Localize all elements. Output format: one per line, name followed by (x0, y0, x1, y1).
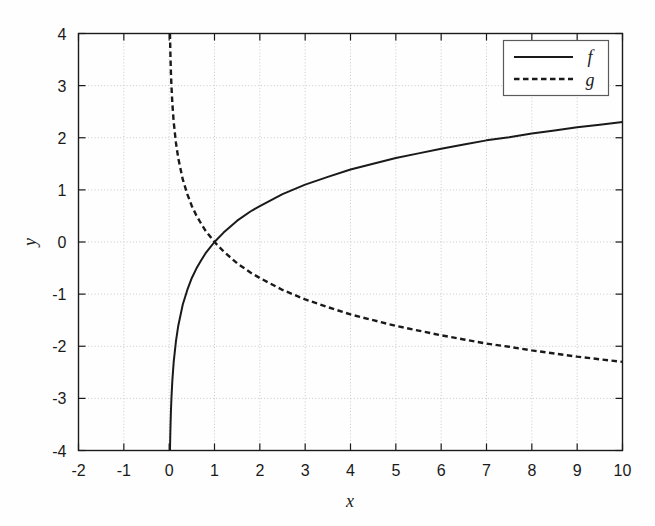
y-tick-label: 4 (58, 26, 67, 43)
y-tick-label: -3 (52, 390, 66, 407)
x-tick-label: 4 (346, 462, 355, 479)
y-tick-label: -2 (52, 338, 66, 355)
chart-page: -2-1012345678910 43210-1-2-3-4 x y f g (0, 0, 655, 526)
x-tick-label: 1 (210, 462, 219, 479)
x-axis-title: x (345, 491, 354, 511)
y-tick-label: 3 (58, 78, 67, 95)
x-tick-label: 8 (527, 462, 536, 479)
y-tick-label: 0 (58, 234, 67, 251)
x-tick-label: 6 (437, 462, 446, 479)
legend-label-g: g (586, 70, 595, 90)
y-tick-label: 2 (58, 130, 67, 147)
x-tick-label: -1 (117, 462, 131, 479)
y-tick-label: -4 (52, 443, 66, 460)
y-tick-label: -1 (52, 286, 66, 303)
x-tick-label: 9 (573, 462, 582, 479)
y-axis-title: y (20, 238, 40, 248)
figure-canvas: -2-1012345678910 43210-1-2-3-4 x y f g (0, 0, 655, 526)
x-tick-label: -2 (71, 462, 85, 479)
x-tick-label: 5 (391, 462, 400, 479)
x-tick-label: 2 (255, 462, 264, 479)
x-tick-label: 0 (165, 462, 174, 479)
x-tick-label: 3 (301, 462, 310, 479)
legend[interactable]: f g (504, 41, 609, 96)
line-plot: -2-1012345678910 43210-1-2-3-4 x y f g (0, 0, 655, 526)
y-tick-label: 1 (58, 182, 67, 199)
x-tick-label: 7 (482, 462, 491, 479)
x-tick-label: 10 (614, 462, 632, 479)
